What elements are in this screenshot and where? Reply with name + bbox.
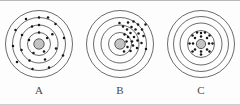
electron-dot	[118, 22, 121, 25]
electron-dot	[43, 50, 46, 53]
electron-dot	[132, 44, 135, 47]
electron-dot	[200, 53, 203, 56]
atom-diagram-figure: A B C	[0, 0, 240, 105]
electron-dot	[208, 34, 211, 37]
diagram-label-a: A	[2, 83, 76, 97]
atom-diagram-a-svg	[2, 7, 76, 81]
electron-dot	[145, 48, 148, 51]
atom-diagram-c	[164, 7, 238, 81]
electron-dot	[211, 42, 214, 45]
electron-dot	[32, 52, 35, 55]
electron-dot	[129, 50, 132, 53]
electron-dot	[194, 48, 197, 51]
atom-diagram-c-svg	[164, 7, 238, 81]
electron-dot	[192, 42, 195, 45]
electron-dot	[208, 50, 211, 53]
electron-dot	[38, 16, 41, 19]
electron-dot	[21, 34, 24, 37]
electron-dot	[51, 33, 54, 36]
electron-dot	[137, 32, 140, 35]
electron-dot	[204, 31, 207, 34]
electron-dot	[123, 50, 126, 53]
electron-dot	[46, 37, 49, 40]
electron-dot	[194, 37, 197, 40]
nucleus-b	[115, 39, 125, 49]
electron-dot	[125, 40, 128, 43]
electron-dot	[55, 47, 58, 50]
atom-diagram-a	[2, 7, 76, 81]
electron-dot	[122, 25, 125, 28]
electron-dot	[123, 33, 126, 36]
electron-dot	[200, 35, 203, 38]
electron-dot	[44, 58, 47, 61]
electron-dot	[20, 49, 23, 52]
atom-diagram-b	[83, 7, 157, 81]
electron-dot	[206, 37, 209, 40]
electron-dot	[142, 35, 145, 38]
electron-dot	[129, 32, 132, 35]
electron-dot	[191, 34, 194, 37]
electron-dot	[31, 25, 34, 28]
electron-dot	[206, 48, 209, 51]
electron-dot	[200, 50, 203, 53]
electron-dot	[127, 21, 130, 24]
electron-dot	[130, 26, 133, 29]
electron-dot	[141, 28, 144, 31]
electron-dot	[14, 29, 17, 32]
electron-dot	[62, 54, 65, 57]
electron-dot	[38, 31, 41, 34]
electron-dot	[126, 28, 129, 31]
electron-dot	[31, 68, 34, 71]
electron-dot	[134, 28, 137, 31]
electron-dot	[196, 31, 199, 34]
electron-dot	[63, 37, 66, 40]
electron-dot	[133, 36, 136, 39]
electron-dot	[12, 45, 15, 48]
electron-dot	[48, 66, 51, 69]
electron-dot	[137, 23, 140, 26]
electron-dot	[144, 23, 147, 26]
diagram-label-b: B	[83, 83, 157, 97]
atom-diagram-b-svg	[83, 7, 157, 81]
electron-dot	[191, 50, 194, 53]
electron-dot	[136, 39, 139, 42]
electron-dot	[126, 46, 129, 49]
electron-dot	[188, 42, 191, 45]
electron-dot	[47, 16, 50, 19]
electron-dot	[127, 36, 130, 39]
electron-dot	[38, 24, 41, 27]
nucleus-a	[34, 39, 44, 49]
electron-dot	[208, 42, 211, 45]
electron-dot	[136, 47, 139, 50]
electron-dot	[54, 23, 57, 26]
electron-dot	[140, 42, 143, 45]
electron-dot	[200, 32, 203, 35]
nucleus-c	[196, 39, 205, 48]
electron-dot	[28, 39, 31, 42]
electron-dot	[16, 61, 19, 64]
electron-dot	[25, 18, 28, 21]
electron-dot	[132, 20, 135, 23]
diagram-label-c: C	[164, 83, 238, 97]
electron-dot	[28, 59, 31, 62]
electron-dot	[131, 40, 134, 43]
